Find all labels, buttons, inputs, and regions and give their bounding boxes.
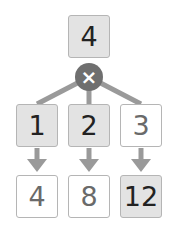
- product-value: 12: [124, 183, 158, 210]
- top-number: 4: [80, 23, 97, 50]
- product-value: 4: [28, 183, 45, 210]
- factor-box: 3: [120, 104, 162, 147]
- arrow-down-icon: [131, 159, 151, 172]
- arrow-down-icon: [27, 159, 47, 172]
- product-box: 8: [68, 175, 110, 218]
- product-box: 12: [120, 175, 162, 218]
- arrow-down-icon: [79, 159, 99, 172]
- product-value: 8: [80, 183, 97, 210]
- factor-value: 1: [28, 112, 45, 139]
- factor-value: 2: [80, 112, 97, 139]
- product-box: 4: [16, 175, 58, 218]
- top-number-box: 4: [68, 15, 110, 58]
- factor-value: 3: [132, 112, 149, 139]
- factor-box: 1: [16, 104, 58, 147]
- multiply-icon: ×: [75, 63, 103, 91]
- factor-box: 2: [68, 104, 110, 147]
